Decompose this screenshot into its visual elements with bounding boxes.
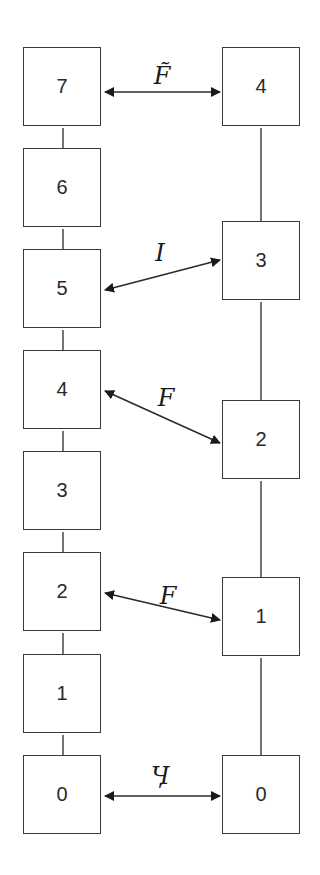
left-box-3: 3 [23, 451, 101, 530]
left-box-2: 2 [23, 552, 101, 631]
box-label: 2 [255, 428, 266, 451]
link-label-7-4: F̃ [154, 64, 171, 88]
ladder-diagram: 7 6 5 4 3 2 1 0 4 3 2 1 0 F̃ I F F Ӌ [0, 0, 320, 875]
link-label-2-1: F [160, 584, 177, 608]
box-label: 0 [56, 783, 67, 806]
box-label: 1 [255, 605, 266, 628]
left-box-5: 5 [23, 249, 101, 328]
box-label: 1 [56, 682, 67, 705]
box-label: 5 [56, 277, 67, 300]
box-label: 6 [56, 176, 67, 199]
link-label-5-3: I [155, 241, 164, 265]
left-box-6: 6 [23, 148, 101, 227]
box-label: 7 [56, 75, 67, 98]
left-box-7: 7 [23, 47, 101, 126]
box-label: 4 [255, 75, 266, 98]
right-box-2: 2 [222, 400, 300, 479]
right-box-4: 4 [222, 47, 300, 126]
box-label: 0 [255, 783, 266, 806]
right-box-3: 3 [222, 221, 300, 300]
link-label-0-0: Ӌ [151, 764, 169, 788]
right-box-0: 0 [222, 755, 300, 834]
box-label: 3 [56, 479, 67, 502]
box-label: 3 [255, 249, 266, 272]
left-box-4: 4 [23, 350, 101, 429]
box-label: 2 [56, 580, 67, 603]
link-label-4-2: F [158, 386, 175, 410]
left-box-1: 1 [23, 654, 101, 733]
box-label: 4 [56, 378, 67, 401]
right-box-1: 1 [222, 577, 300, 656]
left-box-0: 0 [23, 755, 101, 834]
